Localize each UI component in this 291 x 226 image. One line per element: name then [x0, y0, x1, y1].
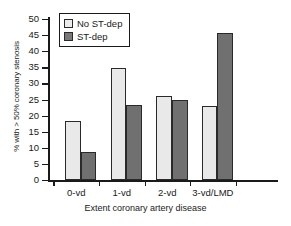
x-tick	[236, 180, 237, 186]
y-tick: 15	[42, 132, 48, 133]
y-tick-label: 40	[28, 45, 39, 56]
bar-group	[145, 19, 191, 180]
y-tick: 5	[42, 164, 48, 165]
legend-swatch-icon	[64, 19, 73, 28]
bar	[126, 105, 142, 180]
x-axis-title: Extent coronary artery disease	[0, 203, 291, 213]
y-tick: 30	[42, 83, 48, 84]
y-tick-label: 0	[34, 174, 39, 185]
y-tick-label: 20	[28, 110, 39, 121]
y-tick-label: 5	[34, 158, 39, 169]
legend-label: No ST-dep	[77, 18, 122, 29]
y-tick: 20	[42, 116, 48, 117]
bar	[111, 68, 127, 180]
y-tick-label: 30	[28, 77, 39, 88]
y-axis-title: % with > 50% coronary stenosis	[12, 13, 21, 181]
legend-swatch-icon	[64, 32, 73, 41]
bar-group	[190, 19, 236, 180]
y-tick: 10	[42, 148, 48, 149]
bar	[202, 106, 218, 180]
x-category-label: 3-vd/LMD	[190, 187, 236, 198]
y-tick-label: 45	[28, 29, 39, 40]
bar	[65, 121, 81, 180]
bar	[81, 152, 97, 180]
x-category-label: 1-vd	[99, 187, 145, 198]
bar	[172, 100, 188, 180]
y-tick-label: 50	[28, 13, 39, 24]
y-axis-line	[48, 17, 50, 180]
x-axis-line	[48, 180, 278, 182]
legend: No ST-depST-dep	[59, 13, 130, 47]
x-tick	[145, 180, 146, 186]
x-category-label: 2-vd	[145, 187, 191, 198]
y-tick: 45	[42, 35, 48, 36]
y-tick-label: 10	[28, 142, 39, 153]
x-tick	[99, 180, 100, 186]
bar-chart: % with > 50% coronary stenosis 504540353…	[0, 0, 291, 226]
legend-label: ST-dep	[77, 31, 108, 42]
x-category-label: 0-vd	[53, 187, 99, 198]
y-tick: 35	[42, 67, 48, 68]
bar	[217, 33, 233, 180]
y-tick-label: 35	[28, 61, 39, 72]
y-tick: 0	[42, 180, 48, 181]
y-tick-label: 15	[28, 126, 39, 137]
y-tick-label: 25	[28, 94, 39, 105]
bar	[156, 96, 172, 180]
y-tick: 40	[42, 51, 48, 52]
y-tick: 50	[42, 19, 48, 20]
legend-item: No ST-dep	[64, 17, 122, 30]
x-tick	[53, 180, 54, 186]
x-tick	[190, 180, 191, 186]
y-tick: 25	[42, 100, 48, 101]
legend-item: ST-dep	[64, 30, 122, 43]
